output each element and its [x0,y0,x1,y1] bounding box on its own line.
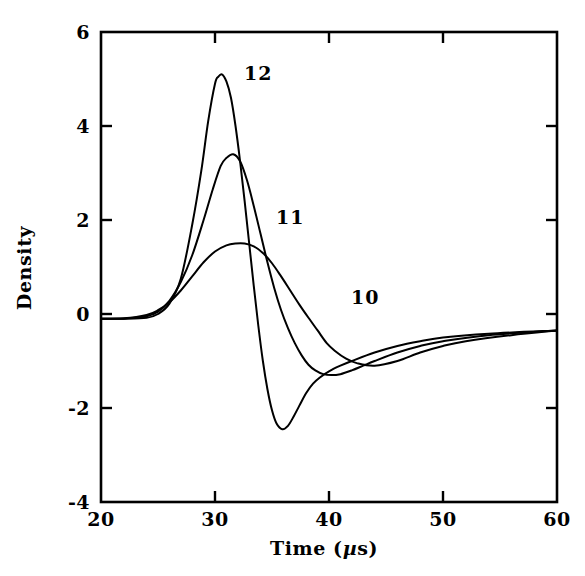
plot-frame [101,32,557,502]
xtick-label-40: 40 [309,508,349,530]
ytick-label-minus-2: -2 [46,397,90,419]
x-axis-title-suffix: s) [357,537,378,559]
figure-container: 6 4 2 0 -2 -4 20 30 40 50 60 Density Tim… [0,0,585,576]
x-axis-title-prefix: Time ( [270,537,343,559]
data-curves [101,74,557,429]
curve-label-10: 10 [351,286,379,308]
ytick-label-4: 4 [56,115,90,137]
chart-canvas [0,0,585,576]
ytick-label-0: 0 [56,303,90,325]
axis-ticks [101,32,557,502]
y-axis-title: Density [13,208,35,328]
xtick-label-30: 30 [195,508,235,530]
ytick-label-2: 2 [56,209,90,231]
xtick-label-60: 60 [537,508,577,530]
curve-label-12: 12 [244,62,272,84]
xtick-label-50: 50 [423,508,463,530]
xtick-label-20: 20 [81,508,121,530]
ytick-label-6: 6 [56,21,90,43]
x-axis-title: Time (µs) [234,537,414,559]
curve-11 [101,154,557,375]
mu-symbol: µ [343,537,358,559]
curve-label-11: 11 [276,206,304,228]
